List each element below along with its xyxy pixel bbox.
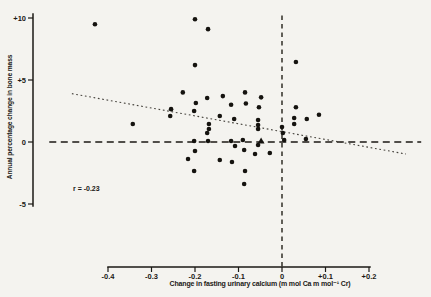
data-point <box>229 139 234 144</box>
data-point <box>292 122 297 127</box>
data-point <box>168 114 173 119</box>
data-point <box>192 139 197 144</box>
x-tick-label: +0.2 <box>362 272 377 281</box>
data-point <box>294 105 299 110</box>
data-point <box>192 109 197 114</box>
data-point <box>317 112 322 117</box>
data-point <box>229 103 234 108</box>
data-point <box>281 131 286 136</box>
data-point <box>194 101 199 106</box>
data-point <box>304 137 309 142</box>
y-tick-label: +5 <box>17 76 26 85</box>
data-point <box>294 60 299 65</box>
data-point <box>233 144 238 149</box>
data-point <box>304 117 309 122</box>
data-point <box>193 149 198 154</box>
data-point <box>242 182 247 187</box>
data-point <box>253 152 258 157</box>
data-point <box>232 117 237 122</box>
y-tick-label: 0 <box>22 138 26 147</box>
data-point <box>242 148 247 153</box>
data-point <box>217 114 222 119</box>
data-point <box>256 123 261 128</box>
data-point <box>241 138 246 143</box>
y-tick-label: +10 <box>13 14 26 23</box>
data-point <box>193 63 198 68</box>
data-point <box>280 125 285 130</box>
data-point <box>207 127 212 132</box>
data-point <box>259 95 264 100</box>
x-tick-label: -0.4 <box>102 272 116 281</box>
data-point <box>243 169 248 174</box>
data-point <box>206 27 211 32</box>
data-point <box>206 139 211 144</box>
data-point <box>205 131 210 136</box>
data-point <box>207 122 212 127</box>
correlation-annotation: r = -0.23 <box>73 185 100 192</box>
data-point <box>169 107 174 112</box>
x-axis-title: Change in fasting urinary calcium (m mol… <box>170 280 351 288</box>
journal-figure-page: +10+50-5-0.4-0.3-0.2-0.10+0.1+0.2 Annual… <box>0 0 431 297</box>
x-tick-label: -0.3 <box>145 272 158 281</box>
data-point <box>230 160 235 165</box>
data-point <box>186 157 191 162</box>
data-point <box>130 122 135 127</box>
data-point <box>268 151 273 156</box>
data-point <box>181 90 186 95</box>
y-axis-title: Annual percentage change in bone mass <box>6 54 14 179</box>
data-point <box>244 101 249 106</box>
data-point <box>221 94 226 99</box>
chart-generated-layer: +10+50-5-0.4-0.3-0.2-0.10+0.1+0.2 <box>13 14 421 281</box>
data-point <box>256 118 261 123</box>
data-point <box>192 169 197 174</box>
data-point <box>193 17 198 22</box>
y-tick-label: -5 <box>19 200 26 209</box>
data-point <box>292 116 297 121</box>
data-point <box>93 22 98 27</box>
data-point <box>257 105 262 110</box>
data-point <box>205 96 210 101</box>
data-point <box>282 138 287 143</box>
scatter-chart-canvas: +10+50-5-0.4-0.3-0.2-0.10+0.1+0.2 Annual… <box>0 0 431 297</box>
data-point <box>243 90 248 95</box>
data-point <box>217 158 222 163</box>
regression-trend-line <box>72 94 406 154</box>
mean-marker-triangle <box>258 138 265 144</box>
data-point <box>256 127 261 132</box>
